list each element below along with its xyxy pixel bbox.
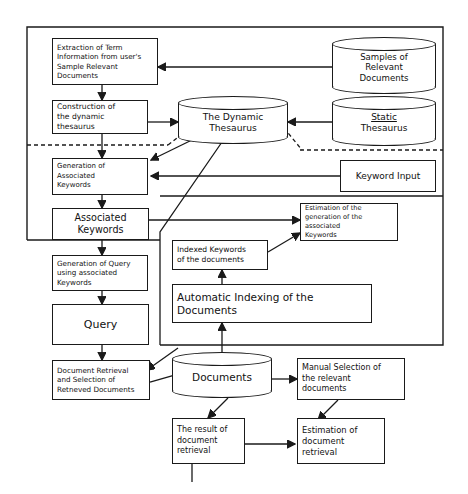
cylinder-dynamic-thesaurus[interactable]: The Dynamic Thesaurus [178, 96, 288, 144]
box-estimation-generation[interactable]: Estimation of the generation of the asso… [300, 203, 398, 241]
box-extraction[interactable]: Extraction of Term Information from user… [52, 38, 158, 85]
cylinder-samples-relevant-documents[interactable]: Samples of Relevant Documents [332, 37, 436, 94]
box-generation-query[interactable]: Generation of Query using associated Key… [52, 255, 148, 291]
cylinder-dynamic-thesaurus-label: The Dynamic Thesaurus [178, 96, 288, 144]
box-result-retrieval[interactable]: The result of document retrieval [172, 418, 245, 464]
cylinder-documents-label: Documents [172, 352, 272, 398]
box-estimation-retrieval[interactable]: Estimation of document retrieval [297, 418, 385, 464]
box-indexed-keywords-label: Indexed Keywords of the documents [173, 245, 267, 265]
cylinder-static-thesaurus-label: Static Thesaurus [332, 96, 436, 146]
arrow-documents-to-result [208, 398, 228, 418]
cylinder-samples-label: Samples of Relevant Documents [332, 37, 436, 94]
box-indexed-keywords[interactable]: Indexed Keywords of the documents [172, 240, 268, 270]
box-automatic-indexing-label: Automatic Indexing of the Documents [173, 291, 371, 317]
box-document-retrieval[interactable]: Document Retrieval and Selection of Retn… [52, 360, 150, 400]
box-estimation-retrieval-label: Estimation of document retrieval [298, 425, 384, 458]
box-extraction-label: Extraction of Term Information from user… [53, 43, 157, 81]
static-thesaurus-line2: Thesaurus [361, 123, 408, 135]
box-manual-selection[interactable]: Manual Selection of the relevant documen… [297, 358, 405, 400]
box-keyword-input[interactable]: Keyword Input [340, 160, 436, 192]
box-generation-associated-label: Generation of Associated Keywords [53, 162, 147, 190]
box-automatic-indexing[interactable]: Automatic Indexing of the Documents [172, 284, 372, 323]
box-construction[interactable]: Construction of the dynamic thesaurus [52, 100, 148, 134]
cylinder-static-thesaurus[interactable]: Static Thesaurus [332, 96, 436, 146]
cylinder-documents[interactable]: Documents [172, 352, 272, 398]
box-construction-label: Construction of the dynamic thesaurus [53, 102, 147, 132]
box-associated-keywords-label: Associated Keywords [53, 212, 148, 236]
arrow-indexed-to-estimation [268, 233, 300, 252]
box-query-label: Query [53, 318, 148, 331]
box-keyword-input-label: Keyword Input [341, 171, 435, 181]
box-associated-keywords[interactable]: Associated Keywords [52, 208, 149, 240]
box-document-retrieval-label: Document Retrieval and Selection of Retn… [53, 366, 149, 395]
box-generation-query-label: Generation of Query using associated Key… [53, 259, 147, 288]
arrow-manual-to-estimation [318, 400, 338, 420]
box-result-retrieval-label: The result of document retrieval [173, 425, 244, 457]
box-estimation-generation-label: Estimation of the generation of the asso… [301, 204, 397, 239]
box-generation-associated[interactable]: Generation of Associated Keywords [52, 158, 148, 195]
box-query[interactable]: Query [52, 304, 149, 345]
static-thesaurus-line1: Static [371, 112, 397, 124]
box-manual-selection-label: Manual Selection of the relevant documen… [298, 363, 404, 395]
